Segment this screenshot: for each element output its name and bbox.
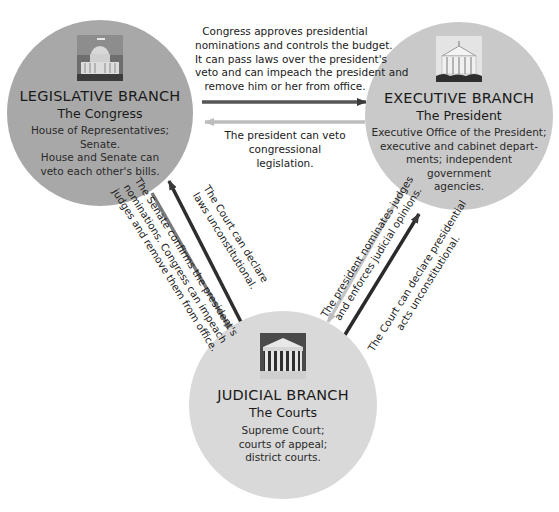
desc-line: ments; independent xyxy=(365,153,553,167)
desc-line: courts of appeal; xyxy=(189,438,377,452)
caption-line: It can pass laws over the president's xyxy=(195,53,375,67)
desc-line: district courts. xyxy=(189,451,377,465)
caption-line: The president can veto xyxy=(210,129,360,143)
executive-description: Executive Office of the President; execu… xyxy=(365,126,553,194)
capitol-building-icon xyxy=(77,35,123,81)
caption-executive-to-legislative: The president can veto congressional leg… xyxy=(210,129,360,170)
white-house-icon xyxy=(436,36,482,82)
caption-legislative-to-executive: Congress approves presidential nominatio… xyxy=(195,25,375,94)
desc-line: Senate. xyxy=(7,138,193,152)
caption-line: remove him or her from office. xyxy=(195,80,375,94)
desc-line: Executive Office of the President; xyxy=(365,126,553,140)
desc-line: Supreme Court; xyxy=(189,424,377,438)
caption-line: veto and can impeach the president and xyxy=(195,66,375,80)
judicial-subtitle: The Courts xyxy=(189,405,377,420)
supreme-court-building-icon xyxy=(260,333,306,379)
legislative-description: House of Representatives; Senate. House … xyxy=(7,124,193,178)
executive-branch-circle: EXECUTIVE BRANCH The President Executive… xyxy=(365,22,553,210)
caption-line: congressional xyxy=(210,143,360,157)
caption-line: nominations and controls the budget. xyxy=(195,39,375,53)
judicial-description: Supreme Court; courts of appeal; distric… xyxy=(189,424,377,465)
cut-off-figure-caption xyxy=(0,505,559,512)
desc-line: House and Senate can xyxy=(7,151,193,165)
desc-line: agencies. xyxy=(365,180,553,194)
legislative-title: LEGISLATIVE BRANCH xyxy=(7,88,193,104)
desc-line: veto each other's bills. xyxy=(7,165,193,179)
executive-title: EXECUTIVE BRANCH xyxy=(365,90,553,106)
legislative-branch-circle: LEGISLATIVE BRANCH The Congress House of… xyxy=(7,20,193,206)
judicial-title: JUDICIAL BRANCH xyxy=(189,387,377,403)
executive-subtitle: The President xyxy=(365,108,553,123)
caption-line: Congress approves presidential xyxy=(195,25,375,39)
caption-line: legislation. xyxy=(210,157,360,171)
desc-line: government xyxy=(365,167,553,181)
legislative-subtitle: The Congress xyxy=(7,106,193,121)
desc-line: executive and cabinet depart- xyxy=(365,140,553,154)
desc-line: House of Representatives; xyxy=(7,124,193,138)
